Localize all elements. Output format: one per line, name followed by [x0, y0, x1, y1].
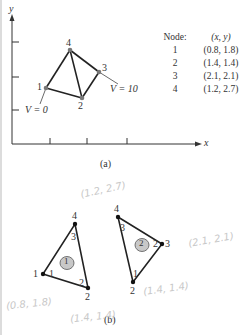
node-1-label: 1 [37, 81, 42, 92]
node-3-label: 3 [102, 62, 107, 73]
mesh-a [46, 50, 99, 98]
cell-xy: (0.8, 1.8) [195, 44, 244, 57]
header-xy: (x, y) [195, 31, 244, 44]
e1-global-node-1: 1 [33, 268, 38, 279]
cell-xy: (2.1, 2.1) [195, 70, 244, 83]
node-3-dot [97, 70, 102, 75]
e2-local-node-2: 2 [153, 238, 158, 249]
cell-node: 1 [155, 44, 195, 57]
caption-a: (a) [100, 158, 111, 169]
e1-global-node-2: 2 [85, 291, 90, 302]
y-axis-label: y [9, 3, 13, 14]
cell-xy: (1.4, 1.4) [195, 57, 244, 70]
element-1-label: 1 [64, 256, 69, 266]
node-2-label: 2 [78, 100, 83, 111]
e2-global-node-2: 2 [130, 285, 135, 296]
node-coordinates-table: Node: (x, y) 1 (0.8, 1.8) 2 (1.4, 1.4) 3… [155, 31, 244, 96]
v0-label: V = 0 [25, 104, 48, 115]
element-2-label: 2 [139, 238, 144, 248]
e1-local-node-2: 2 [79, 277, 84, 288]
cell-node: 2 [155, 57, 195, 70]
cell-node: 4 [155, 83, 195, 96]
cell-node: 3 [155, 70, 195, 83]
e1-local-node-1: 1 [49, 268, 54, 279]
table-row: 1 (0.8, 1.8) [155, 44, 244, 57]
x-axis-label: x [204, 137, 208, 148]
e2-local-node-1: 1 [133, 268, 138, 279]
table-row: 2 (1.4, 1.4) [155, 57, 244, 70]
table-row: 4 (1.2, 2.7) [155, 83, 244, 96]
e1-global-node-4: 4 [72, 210, 77, 221]
e1-local-node-3: 3 [71, 231, 76, 242]
e2-local-node-3: 3 [120, 222, 125, 233]
e2-global-node-3: 3 [165, 238, 170, 249]
table-row: 3 (2.1, 2.1) [155, 70, 244, 83]
node-1-dot [44, 86, 49, 91]
header-node: Node: [155, 31, 195, 44]
table-header: Node: (x, y) [155, 31, 244, 44]
e2-global-node-4: 4 [114, 203, 119, 214]
node-4-dot [68, 48, 73, 53]
node-4-label: 4 [66, 37, 71, 48]
cell-xy: (1.2, 2.7) [195, 83, 244, 96]
v10-label: V = 10 [110, 83, 138, 94]
